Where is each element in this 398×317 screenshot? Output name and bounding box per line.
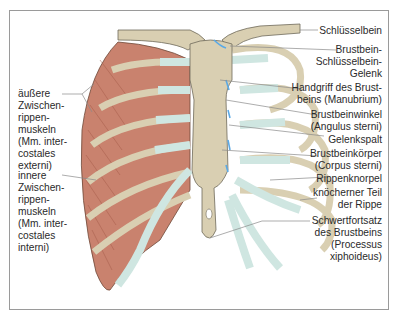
label-internal-intercostals: innere Zwischen- rippen- muskeln (Mm. in… bbox=[18, 170, 67, 254]
label-external-intercostals: äußere Zwischen- rippen- muskeln (Mm. in… bbox=[18, 88, 67, 172]
sternum-shape bbox=[190, 40, 232, 238]
xiphoid-foramen bbox=[206, 209, 212, 219]
label-joint-space: Gelenkspalt bbox=[328, 134, 382, 146]
label-xiphoid-process: Schwertfortsatz des Brustbeins (Processu… bbox=[312, 215, 382, 263]
label-manubrium: Handgriff des Brust- beins (Manubrium) bbox=[292, 82, 382, 106]
label-costal-cartilage: Rippenknorpel bbox=[316, 173, 382, 185]
label-sternoclavicular-joint: Brustbein- Schlüsselbein- Gelenk bbox=[316, 44, 382, 80]
label-sternal-body: Brustbeinkörper (Corpus sterni) bbox=[310, 148, 382, 172]
label-clavicle: Schlüsselbein bbox=[319, 25, 382, 37]
label-sternal-angle: Brustbeinwinkel (Angulus sterni) bbox=[311, 109, 382, 133]
label-bony-rib: knöcherner Teil der Rippe bbox=[313, 187, 382, 211]
